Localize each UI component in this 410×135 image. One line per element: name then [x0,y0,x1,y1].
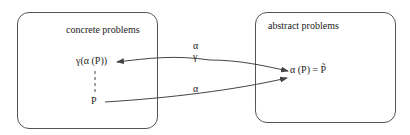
edge-label-top-gamma: γ [193,51,197,62]
alpha-top-arrow [210,60,288,71]
node-gamma-alpha-p: γ(α (P)) [76,55,107,66]
edge-label-top-alpha: α [193,40,198,51]
abstract-problems-title: abstract problems [268,20,339,31]
node-alpha-p-eq: α (P) = P̃ [290,64,326,75]
concrete-problems-title: concrete problems [66,24,140,35]
node-p: P [91,95,97,106]
arrows-layer [0,0,410,135]
edge-label-bottom-alpha: α [193,83,198,94]
